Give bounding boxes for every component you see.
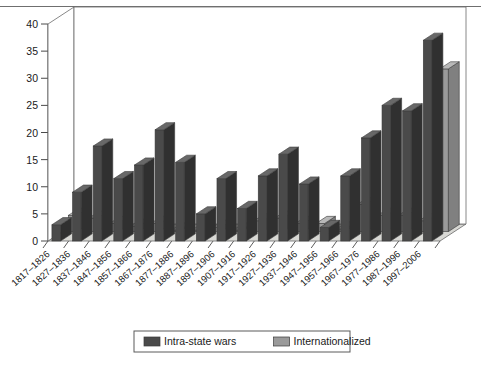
bar-intra-state-wars: [176, 155, 196, 241]
legend-swatch: [274, 337, 290, 346]
bar-intra-state-wars: [93, 139, 113, 241]
bar-intra-state-wars: [299, 177, 319, 241]
bar-intra-state-wars: [403, 104, 423, 241]
bar-intra-state-wars: [114, 171, 134, 241]
bar-intra-state-wars: [423, 33, 443, 241]
chart-figure: 0510152025303540 1817–18261827–18361837–…: [0, 0, 481, 369]
x-axis-labels: 1817–18261827–18361837–18461847–18561857…: [9, 248, 423, 288]
y-tick-label: 25: [26, 99, 38, 111]
legend-swatch: [144, 337, 160, 346]
bar-intra-state-wars: [217, 171, 237, 241]
bar-intra-state-wars: [361, 131, 381, 241]
bar-chart-3d: 0510152025303540 1817–18261827–18361837–…: [0, 0, 481, 369]
bar-intra-state-wars: [238, 201, 258, 241]
legend-label: Intra-state wars: [164, 335, 236, 347]
bar-intra-state-wars: [73, 185, 93, 241]
bar-intra-state-wars: [134, 158, 154, 241]
y-tick-label: 30: [26, 72, 38, 84]
bar-intra-state-wars: [155, 123, 175, 241]
y-tick-label: 40: [26, 18, 38, 30]
bar-intra-state-wars: [279, 147, 299, 241]
legend-label: Internationalized: [294, 335, 371, 347]
y-tick-label: 35: [26, 45, 38, 57]
chart-legend: Intra-state warsInternationalized: [134, 331, 371, 352]
bar-intra-state-wars: [196, 207, 216, 241]
y-tick-label: 10: [26, 181, 38, 193]
bar-intra-state-wars: [341, 169, 361, 241]
y-tick-label: 5: [32, 208, 38, 220]
bar-intra-state-wars: [258, 169, 278, 241]
bar-intra-state-wars: [382, 98, 402, 241]
y-tick-label: 0: [32, 235, 38, 247]
y-tick-label: 15: [26, 154, 38, 166]
y-tick-label: 20: [26, 127, 38, 139]
top-divider-rule: [0, 6, 481, 7]
